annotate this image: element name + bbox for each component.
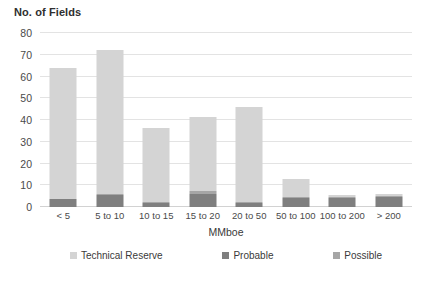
chart-legend: Technical ReserveProbablePossible <box>40 250 412 261</box>
stacked-bar[interactable] <box>189 117 216 207</box>
legend-swatch-icon <box>333 252 340 259</box>
y-axis-title: No. of Fields <box>14 6 81 18</box>
bar-segment-technical-reserve[interactable] <box>282 179 309 197</box>
bar-segment-probable[interactable] <box>96 195 123 207</box>
stacked-bar[interactable] <box>375 194 402 207</box>
bar-series-container <box>40 33 412 207</box>
bar-segment-probable[interactable] <box>189 194 216 207</box>
stacked-bar[interactable] <box>282 179 309 207</box>
y-axis-tick-label: 80 <box>20 27 32 39</box>
bar-slot <box>40 33 87 207</box>
x-axis-tick-label: < 5 <box>40 210 87 221</box>
bar-slot <box>133 33 180 207</box>
stacked-bar[interactable] <box>143 128 170 207</box>
y-axis-tick-label: 50 <box>20 92 32 104</box>
bar-slot <box>319 33 366 207</box>
legend-swatch-icon <box>222 252 229 259</box>
bar-slot <box>87 33 134 207</box>
bar-segment-probable[interactable] <box>143 203 170 207</box>
legend-item[interactable]: Technical Reserve <box>70 250 163 261</box>
x-axis-title: MMboe <box>40 226 412 238</box>
bar-segment-probable[interactable] <box>282 198 309 207</box>
stacked-bar[interactable] <box>329 195 356 207</box>
legend-label: Technical Reserve <box>81 250 163 261</box>
stacked-bar[interactable] <box>236 107 263 207</box>
y-axis-tick-label: 20 <box>20 158 32 170</box>
bar-segment-technical-reserve[interactable] <box>96 50 123 194</box>
x-axis-tick-label: 20 to 50 <box>226 210 273 221</box>
x-axis-tick-label: > 200 <box>366 210 413 221</box>
bar-segment-probable[interactable] <box>236 203 263 207</box>
y-axis-tick-label: 30 <box>20 136 32 148</box>
bar-segment-probable[interactable] <box>50 199 77 207</box>
x-axis-tick-label: 15 to 20 <box>180 210 227 221</box>
y-axis-tick-label: 0 <box>26 201 32 213</box>
bar-slot <box>366 33 413 207</box>
x-axis-tick-label: 5 to 10 <box>87 210 134 221</box>
stacked-bar-chart: No. of Fields 01020304050607080 < 55 to … <box>0 0 430 281</box>
legend-label: Probable <box>233 250 273 261</box>
plot-area <box>40 33 412 207</box>
y-axis-tick-label: 10 <box>20 179 32 191</box>
bar-segment-probable[interactable] <box>329 198 356 207</box>
y-axis-tick-label: 70 <box>20 49 32 61</box>
bar-segment-technical-reserve[interactable] <box>236 107 263 202</box>
x-axis-tick-label: 50 to 100 <box>273 210 320 221</box>
bar-segment-technical-reserve[interactable] <box>50 68 77 200</box>
stacked-bar[interactable] <box>50 68 77 207</box>
bar-slot <box>273 33 320 207</box>
legend-label: Possible <box>344 250 382 261</box>
stacked-bar[interactable] <box>96 50 123 207</box>
legend-swatch-icon <box>70 252 77 259</box>
x-axis-tick-labels: < 55 to 1010 to 1515 to 2020 to 5050 to … <box>40 210 412 221</box>
bar-segment-technical-reserve[interactable] <box>143 128 170 202</box>
bar-slot <box>226 33 273 207</box>
y-axis-tick-labels: 01020304050607080 <box>0 33 36 207</box>
legend-item[interactable]: Probable <box>222 250 273 261</box>
y-axis-tick-label: 60 <box>20 71 32 83</box>
x-axis-tick-label: 10 to 15 <box>133 210 180 221</box>
y-axis-tick-label: 40 <box>20 114 32 126</box>
bar-slot <box>180 33 227 207</box>
x-axis-tick-label: 100 to 200 <box>319 210 366 221</box>
bar-segment-technical-reserve[interactable] <box>189 117 216 191</box>
legend-item[interactable]: Possible <box>333 250 382 261</box>
bar-segment-probable[interactable] <box>375 197 402 207</box>
